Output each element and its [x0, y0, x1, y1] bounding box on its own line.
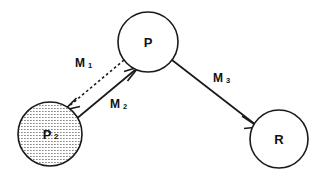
- edge-m2-line: [75, 70, 135, 120]
- edge-m3-line: [172, 60, 256, 125]
- edge-m1-label: M: [75, 56, 85, 70]
- edge-m3-label-subscript: 3: [226, 76, 230, 85]
- edge-m2-label: M: [110, 97, 120, 111]
- node-p-label: P: [144, 35, 153, 50]
- edge-m3-label: M: [213, 71, 223, 85]
- edge-m1-label-subscript: 1: [88, 61, 92, 70]
- node-r-label: R: [274, 132, 284, 147]
- node-r[interactable]: R: [250, 110, 308, 168]
- node-p[interactable]: P: [118, 12, 178, 72]
- diagram-canvas: M 1 M 2 M 3 P P 2: [0, 0, 321, 181]
- node-p2-label: P: [43, 127, 52, 142]
- edge-m2-label-subscript: 2: [123, 102, 127, 111]
- node-p2-label-subscript: 2: [54, 132, 59, 141]
- diagram-svg: M 1 M 2 M 3 P P 2: [0, 0, 321, 181]
- node-p2[interactable]: P 2: [18, 102, 82, 166]
- edge-m3: M 3: [172, 60, 259, 129]
